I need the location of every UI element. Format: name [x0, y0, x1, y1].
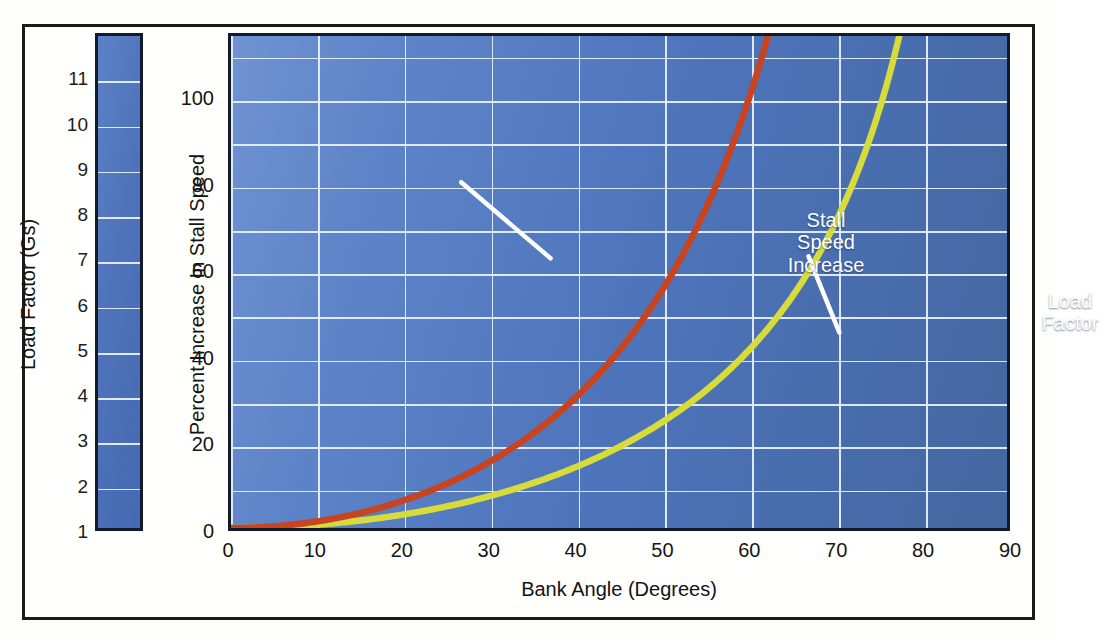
scale-bar-tick: [98, 81, 140, 83]
annotation-line: Speed: [771, 231, 881, 253]
bank-angle-axis-title: Bank Angle (Degrees): [228, 578, 1010, 601]
y-axis-tick-labels: 020406080100: [168, 33, 220, 531]
annotation-line: Load: [1025, 290, 1105, 312]
load-factor-annotation: LoadFactor: [1025, 290, 1105, 335]
x-tick-label: 20: [391, 540, 413, 560]
load-factor-tick-label: 6: [77, 295, 88, 314]
plot-frame: [228, 33, 1010, 531]
load-factor-tick-label: 3: [77, 431, 88, 450]
load-factor-tick-labels: 1234567891011: [52, 33, 92, 531]
load-factor-tick-label: 4: [77, 386, 88, 405]
leader-line-stall: [461, 182, 550, 258]
load-factor-tick-label: 8: [77, 205, 88, 224]
plot-area: StallSpeedIncrease LoadFactor: [228, 33, 1010, 531]
x-tick-label: 80: [912, 540, 934, 560]
scale-bar-tick: [98, 489, 140, 491]
load-factor-tick-label: 7: [77, 250, 88, 269]
x-tick-label: 50: [651, 540, 673, 560]
x-tick-label: 40: [564, 540, 586, 560]
scale-bar-tick: [98, 127, 140, 129]
scale-bar-tick: [98, 217, 140, 219]
y-tick-label: 0: [203, 521, 214, 541]
annotation-line: Increase: [771, 254, 881, 276]
x-tick-label: 10: [304, 540, 326, 560]
stall-speed-increase-annotation: StallSpeedIncrease: [771, 209, 881, 276]
annotation-line: Factor: [1025, 312, 1105, 334]
x-axis-tick-labels: 0102030405060708090: [228, 540, 1010, 570]
load-factor-tick-label: 2: [77, 476, 88, 495]
load-factor-tick-label: 1: [77, 522, 88, 541]
load-factor-axis-title: Load Factor (Gs): [17, 195, 40, 395]
load-factor-tick-label: 10: [67, 114, 88, 133]
x-tick-label: 70: [825, 540, 847, 560]
load-factor-tick-label: 11: [68, 69, 88, 88]
x-tick-label: 90: [999, 540, 1021, 560]
y-tick-label: 40: [192, 348, 214, 368]
x-tick-label: 0: [222, 540, 233, 560]
scale-bar-tick: [98, 443, 140, 445]
annotation-line: Stall: [771, 209, 881, 231]
load-factor-scale-bar: [95, 33, 143, 531]
scale-bar-tick: [98, 262, 140, 264]
load-factor-tick-label: 5: [77, 340, 88, 359]
x-tick-label: 30: [478, 540, 500, 560]
y-tick-label: 20: [192, 434, 214, 454]
y-tick-label: 60: [192, 261, 214, 281]
scale-bar-tick: [98, 353, 140, 355]
scale-bar-tick: [98, 398, 140, 400]
scale-bar-tick: [98, 308, 140, 310]
scale-bar-tick: [98, 172, 140, 174]
x-tick-label: 60: [738, 540, 760, 560]
y-tick-label: 100: [181, 88, 214, 108]
y-tick-label: 80: [192, 175, 214, 195]
load-factor-tick-label: 9: [77, 159, 88, 178]
leader-line-layer: [231, 36, 1007, 528]
